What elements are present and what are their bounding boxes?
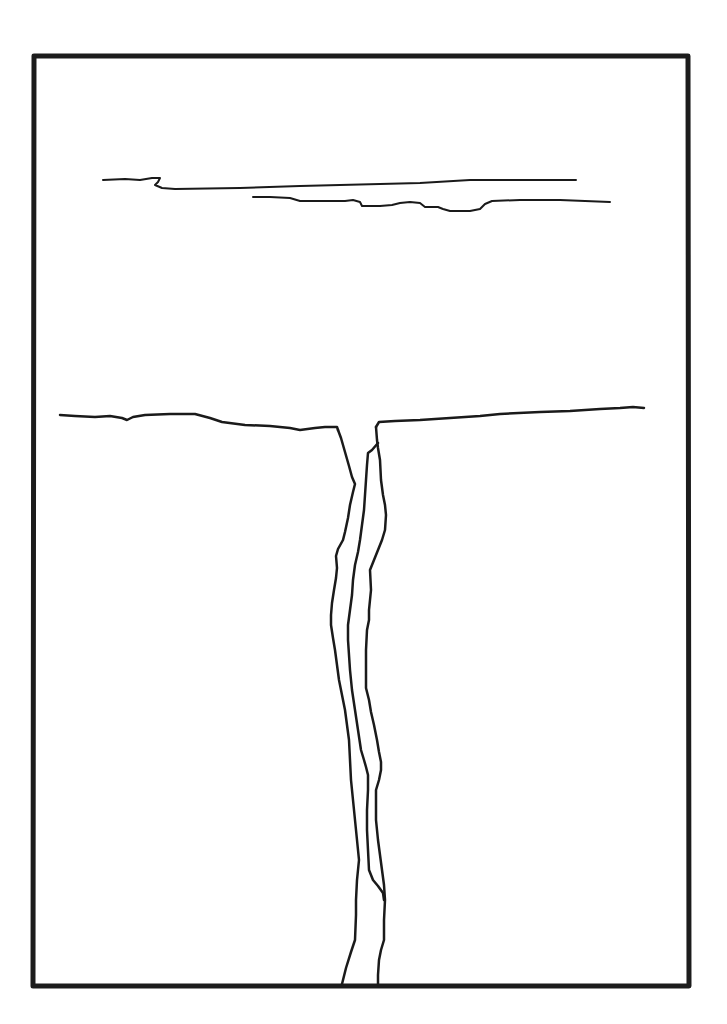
line-drawing-canvas — [0, 0, 727, 1024]
